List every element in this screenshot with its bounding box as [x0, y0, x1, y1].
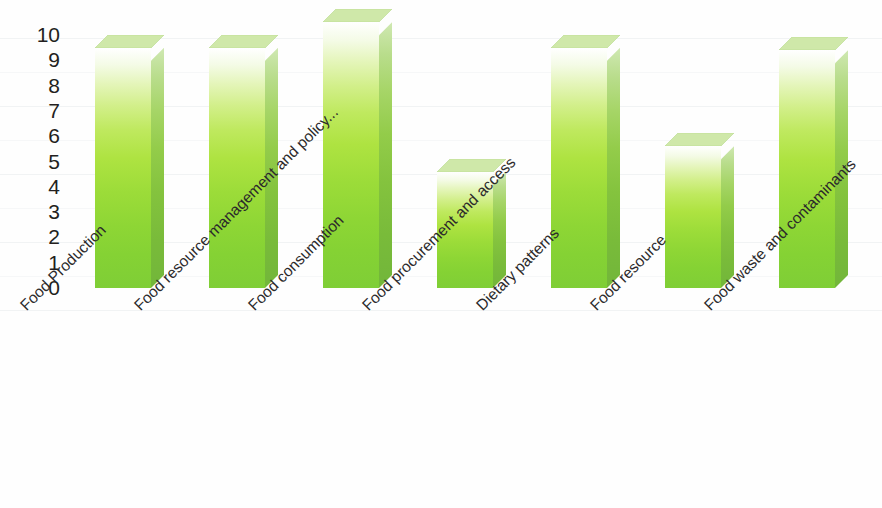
x-axis-category-label: Food resource management and policy... [131, 104, 341, 314]
x-axis-labels: Food ProductionFood resource management … [0, 0, 882, 508]
x-axis-category-label: Food Production [17, 222, 109, 314]
x-axis-category-label: Food resource [587, 232, 669, 314]
x-axis-category-label: Food waste and contaminants [701, 156, 859, 314]
x-axis-category-label: Dietary patterns [473, 225, 562, 314]
bar-chart-figure: 109876543210 Food ProductionFood resourc… [0, 0, 882, 508]
x-axis-category-label: Food consumption [245, 212, 346, 313]
